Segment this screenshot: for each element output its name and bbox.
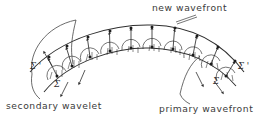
right-envelope-arc bbox=[180, 56, 200, 94]
new-wavefront-label: new wavefront bbox=[152, 3, 227, 12]
sigma-prime-label-left: Σ ' bbox=[30, 62, 41, 71]
sigma-label-right: Σ bbox=[213, 77, 219, 86]
secondary-wavelet-leader-line bbox=[31, 74, 40, 99]
huygens-principle-figure: new wavefront secondary wavelet primary … bbox=[0, 0, 263, 119]
sigma-label-left: Σ bbox=[54, 80, 60, 89]
new-wavefront-leader-line bbox=[176, 15, 197, 24]
sigma-prime-label-right: Σ ' bbox=[238, 62, 249, 71]
secondary-wavelet-arcs bbox=[47, 38, 235, 81]
outer-ray-arrows bbox=[44, 52, 223, 96]
wavelet-tick-marks bbox=[50, 44, 233, 81]
secondary-wavelet-label: secondary wavelet bbox=[6, 101, 102, 110]
left-inner-envelope-arc bbox=[72, 20, 76, 64]
primary-wavefront-label: primary wavefront bbox=[159, 104, 253, 113]
primary-wavefront-curve bbox=[44, 48, 236, 92]
normal-arrows bbox=[49, 28, 235, 76]
